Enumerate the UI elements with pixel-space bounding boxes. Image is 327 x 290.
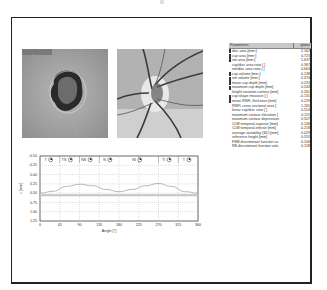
sector-icon-dot [189,158,191,160]
sector-icon-dot [90,158,92,160]
x-tick-label: 45 [58,223,62,227]
x-tick-label: 270 [156,223,162,227]
x-tick-label: 315 [175,223,181,227]
header-name: Parameters [229,43,294,48]
sector-label: N [103,158,106,162]
parameter-value: 0.158 [294,144,311,149]
y-tick-label: 0.00 [30,173,37,177]
sector-label: NI [132,158,136,162]
y-tick-label: 1.25 [30,219,37,223]
y-tick-label: 0.50 [30,191,37,195]
sector-icon-dot [70,158,72,160]
y-tick-label: -0.25 [29,163,37,167]
sector-label: NS [81,158,87,162]
y-tick-label: 1.00 [30,210,37,214]
sector-label: TS [62,158,67,162]
sector-label: TI [162,158,165,162]
x-tick-label: 180 [116,223,122,227]
x-axis-label: Angle [°] [102,229,116,233]
parameter-name: RB discriminant function valu [231,144,294,149]
sector-icon-dot [110,158,112,160]
y-tick-label: 0.75 [30,201,37,205]
x-tick-label: 135 [96,223,102,227]
sector-icon-dot [169,158,171,160]
parameters-table: Parameters global disc area [mm²]2.162cu… [229,43,311,149]
y-axis-label: z [mm] [19,183,23,194]
x-tick-label: 0 [39,223,41,227]
parameter-row[interactable]: RB discriminant function valu0.158 [229,144,311,149]
sector-icon-dot [139,158,141,160]
sector-icon-dot [50,158,52,160]
top-mark [160,0,164,4]
y-tick-label: 0.25 [30,182,37,186]
contour-profile-chart: -0.50-0.250.000.250.500.751.001.25045901… [14,150,204,236]
y-tick-label: -0.50 [29,154,37,158]
x-tick-label: 360 [195,223,201,227]
x-tick-label: 225 [136,223,142,227]
header-value: global [294,43,311,48]
x-tick-label: 90 [78,223,82,227]
reflectance-image [117,49,203,138]
topography-image [22,49,108,138]
